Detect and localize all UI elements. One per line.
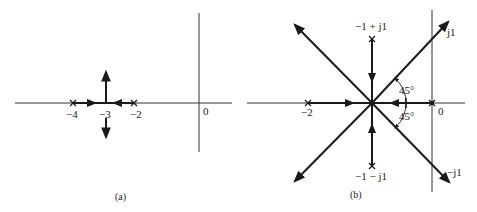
- pole-label: −1 + j1: [355, 20, 387, 32]
- pole-label: −1 − j1: [355, 170, 387, 182]
- asymptote-135-arrow-icon: [295, 25, 372, 103]
- angle-label: 45°: [399, 110, 414, 122]
- origin-label: 0: [203, 105, 209, 117]
- panel-a: −4 −3 −2 0 (a): [15, 13, 232, 203]
- centroid-dot: [370, 101, 375, 106]
- tick-label: −2: [130, 108, 142, 120]
- tick-label: −2: [301, 106, 313, 118]
- tick-label: −4: [66, 108, 78, 120]
- neg-imag-label: −j1: [447, 166, 462, 178]
- origin-label: 0: [438, 105, 444, 117]
- tick-label: −3: [99, 108, 111, 120]
- angle-label: 45°: [399, 84, 414, 96]
- panel-caption: (b): [350, 189, 362, 201]
- root-locus-figure: −4 −3 −2 0 (a): [0, 0, 477, 212]
- panel-caption: (a): [115, 191, 126, 203]
- panel-b: −1 + j1 −1 − j1 −2 0 j1 −j1 45° 45° (b): [247, 10, 465, 201]
- pos-imag-label: j1: [446, 26, 456, 38]
